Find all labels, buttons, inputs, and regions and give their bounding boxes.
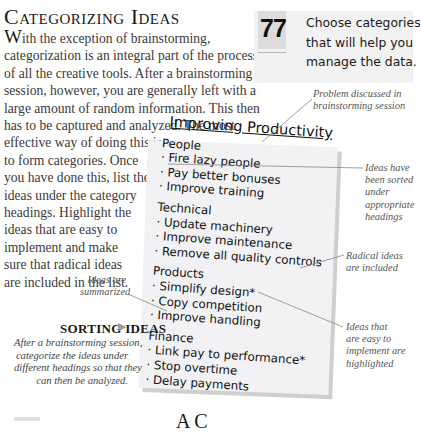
annotation-problem: Problem discussed in brainstorming sessi… (313, 88, 405, 112)
next-section-heading-partial: A C (176, 410, 208, 432)
annotation-line: Problem discussed in (313, 88, 405, 100)
pointer-arrow-icon: ▶ (118, 320, 126, 333)
annotation-line: appropriate (365, 199, 414, 211)
annotation-line: Ideas are (80, 274, 126, 286)
annotation-line: implement are (346, 345, 405, 357)
annotation-line: Ideas that (346, 321, 405, 333)
annotation-easy: Ideas that are easy to implement are hig… (346, 321, 405, 370)
annotation-radical: Radical ideas are included (346, 250, 403, 274)
annotation-line: been sorted (365, 174, 414, 186)
annotation-line: are included (346, 262, 403, 274)
annotation-line: are easy to (346, 333, 405, 345)
annotation-line: Radical ideas (346, 250, 403, 262)
annotation-sorted: Ideas have been sorted under appropriate… (365, 162, 414, 223)
annotation-line: headings (365, 211, 414, 223)
caption-text: After a brainstorming session, categoriz… (14, 337, 128, 387)
caption-line: different headings so that they (14, 362, 128, 375)
caption-line: categorize the ideas under (14, 350, 128, 363)
next-tip-box-partial (14, 417, 40, 421)
annotation-line: under (365, 186, 414, 198)
annotation-line: brainstorming session (313, 100, 405, 112)
annotation-line: Ideas have (365, 162, 414, 174)
caption-line: After a brainstorming session, (14, 337, 128, 350)
caption-heading: SORTING IDEAS (60, 321, 166, 337)
annotation-summarized: Ideas are summarized (80, 274, 126, 298)
annotation-line: summarized (80, 286, 126, 298)
annotation-line: highlighted (346, 358, 405, 370)
caption-line: can then be analyzed. (14, 375, 128, 388)
